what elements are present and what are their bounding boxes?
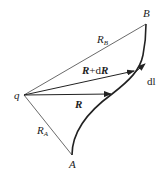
ra-label: RA	[36, 124, 49, 138]
r-plus-dr-vector	[24, 71, 134, 95]
path-curve	[72, 24, 146, 155]
r-vector-label: R	[74, 98, 82, 110]
r-plus-dr-label: R+dR	[81, 64, 108, 76]
rb-label: RB	[96, 33, 109, 47]
rb-line	[24, 24, 146, 95]
point-a-label: A	[68, 158, 76, 170]
point-b-label: B	[143, 7, 150, 19]
r-vector	[24, 94, 111, 95]
dl-label: dl	[147, 75, 156, 87]
electric-potential-path-diagram: q B A RB RA R R+dR dl	[0, 0, 165, 185]
ra-line	[24, 95, 72, 155]
charge-label: q	[14, 89, 20, 101]
